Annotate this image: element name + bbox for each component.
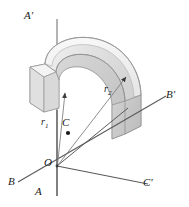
origin-label: O (44, 157, 52, 168)
radius-r1-label: r1 (41, 117, 48, 130)
centroid-point-marker (66, 131, 70, 135)
axis-label-a: A (35, 186, 42, 197)
centroid-label: C (62, 117, 69, 128)
arch-near-end-underface (44, 72, 59, 112)
axis-label-b-prime: B' (166, 89, 175, 100)
radius-r2-subscript: 2 (108, 89, 112, 97)
origin-point-marker (56, 165, 59, 168)
radius-r2-label: r2 (104, 84, 111, 97)
axis-label-b: B (8, 176, 15, 187)
axis-label-c-prime: C' (143, 177, 153, 188)
figure-diagram (0, 0, 189, 207)
axis-label-a-prime: A' (24, 10, 33, 21)
radius-r1-subscript: 1 (45, 122, 49, 130)
figure-root: A' A B B' C' O C r1 r2 (0, 0, 189, 207)
